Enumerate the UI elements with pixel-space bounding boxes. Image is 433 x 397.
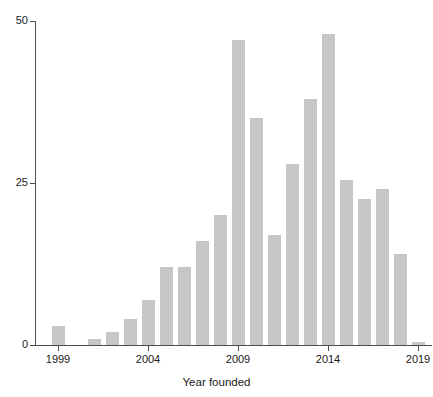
x-axis-tick-mark [418, 346, 419, 351]
bar [250, 118, 263, 345]
bar [106, 332, 119, 345]
bar [232, 40, 245, 345]
x-axis-line [35, 345, 432, 346]
bar [160, 267, 173, 345]
y-axis-line [35, 21, 36, 346]
y-axis-tick-mark [30, 183, 35, 184]
x-axis-tick-label: 2019 [406, 353, 430, 365]
bar [304, 99, 317, 345]
y-axis-tick-label: 0 [0, 339, 28, 350]
bar [124, 319, 137, 345]
x-axis-tick-label: 2004 [136, 353, 160, 365]
bar [196, 241, 209, 345]
y-axis-tick-mark [30, 345, 35, 346]
bar [412, 342, 425, 345]
bar [286, 164, 299, 345]
y-axis-tick-label-text: 50 [0, 15, 28, 26]
x-axis-tick-mark [238, 346, 239, 351]
bar [376, 189, 389, 345]
bar [214, 215, 227, 345]
x-axis-tick-label: 2014 [316, 353, 340, 365]
bar [142, 300, 155, 345]
y-axis-tick-label: 25 [0, 177, 28, 188]
x-axis-tick-mark [148, 346, 149, 351]
y-axis-tick-label: 50 [0, 15, 28, 26]
x-axis-title: Year founded [0, 376, 433, 389]
bar [358, 199, 371, 345]
bar [268, 235, 281, 345]
bar [322, 34, 335, 345]
x-axis-tick-mark [58, 346, 59, 351]
y-axis-tick-mark [30, 21, 35, 22]
bar [52, 326, 65, 345]
bar [394, 254, 407, 345]
bar-chart: 02550 19992004200920142019 Year founded [0, 0, 433, 397]
bar [340, 180, 353, 345]
bar [178, 267, 191, 345]
plot-area: 02550 19992004200920142019 Year founded [0, 0, 433, 397]
bar [88, 339, 101, 345]
x-axis-tick-label: 2009 [226, 353, 250, 365]
y-axis-tick-label-text: 25 [0, 177, 28, 188]
y-axis-tick-label-text: 0 [0, 339, 28, 350]
x-axis-tick-mark [328, 346, 329, 351]
x-axis-tick-label: 1999 [46, 353, 70, 365]
